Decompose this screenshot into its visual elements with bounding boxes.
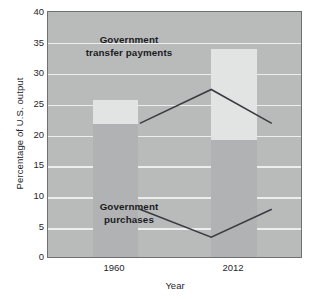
leader-line-transfer-payments xyxy=(140,89,272,123)
annotation-transfer-payments: Government transfer payments xyxy=(61,34,197,59)
y-tick-label: 40 xyxy=(18,7,44,17)
y-tick-label: 20 xyxy=(18,130,44,140)
x-axis-title: Year xyxy=(110,280,240,291)
y-axis-tick-labels: 40 35 30 25 20 15 10 5 0 xyxy=(12,0,44,299)
y-tick-label: 15 xyxy=(18,160,44,170)
chart-figure: Percentage of U.S. output 40 35 30 25 20… xyxy=(0,0,318,299)
y-tick-label: 0 xyxy=(18,252,44,262)
y-tick-label: 35 xyxy=(18,38,44,48)
annotation-purchases-line1: Government xyxy=(61,201,197,214)
annotation-transfer-line1: Government xyxy=(61,34,197,47)
annotation-purchases-line2: purchases xyxy=(61,214,197,227)
y-tick-label: 25 xyxy=(18,99,44,109)
y-tick-label: 10 xyxy=(18,191,44,201)
x-tick-label-2012: 2012 xyxy=(203,262,263,273)
x-tick-label-1960: 1960 xyxy=(84,262,144,273)
annotation-government-purchases: Government purchases xyxy=(61,201,197,226)
y-tick-label: 5 xyxy=(18,222,44,232)
y-tick-label: 30 xyxy=(18,68,44,78)
annotation-transfer-line2: transfer payments xyxy=(61,47,197,60)
